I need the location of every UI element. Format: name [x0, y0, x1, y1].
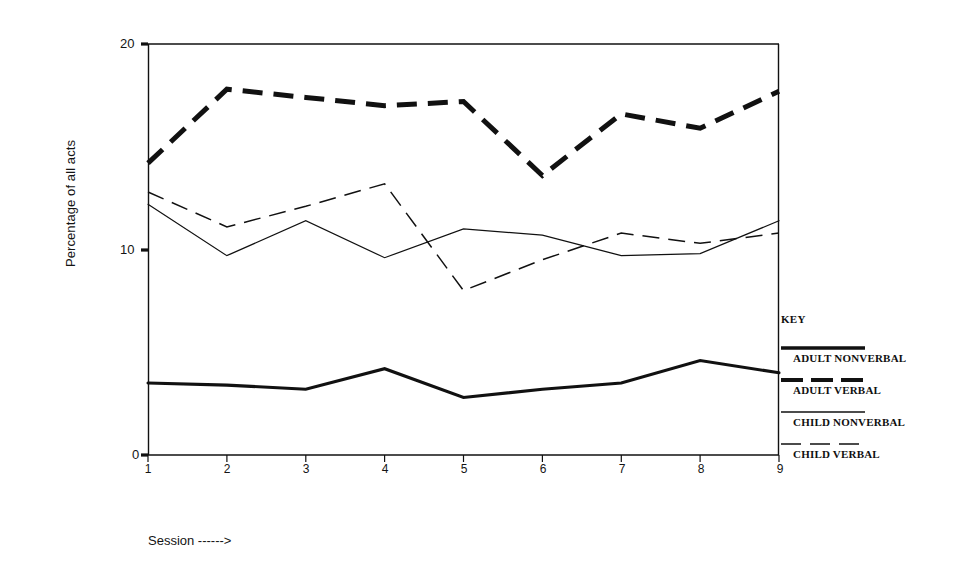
series-line-adult-nonverbal [148, 89, 779, 175]
legend-label-adult-nonverbal: ADULT NONVERBAL [793, 352, 906, 364]
series-layer [148, 89, 779, 397]
plot-area [0, 0, 956, 570]
legend-swatch-adult-nonverbal [781, 345, 865, 351]
legend-label-child-verbal: CHILD VERBAL [793, 448, 880, 460]
series-line-child-nonverbal [148, 204, 779, 257]
legend-label-child-nonverbal: CHILD NONVERBAL [793, 416, 905, 428]
legend-swatch-adult-verbal [781, 377, 865, 383]
legend-swatch-child-nonverbal [781, 409, 865, 415]
series-line-adult-verbal [148, 360, 779, 397]
figure-canvas: g y Percentage of all acts 20 10 0 1 2 3… [0, 0, 956, 570]
legend-label-adult-verbal: ADULT VERBAL [793, 384, 881, 396]
legend-title: KEY [781, 313, 806, 325]
legend-swatch-child-verbal [781, 441, 865, 447]
x-tick-marks [148, 455, 779, 462]
series-line-child-verbal [148, 184, 779, 291]
